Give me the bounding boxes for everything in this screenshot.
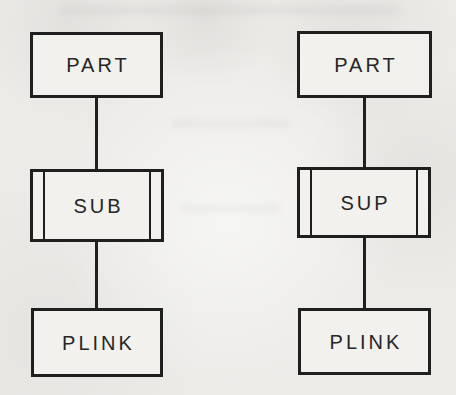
record-box-left-bar bbox=[310, 170, 312, 235]
connector-sub-to-plink bbox=[95, 242, 98, 308]
entity-box-label: PART bbox=[63, 55, 130, 75]
entity-box-label: PART bbox=[331, 55, 398, 75]
record-box-label: SUP bbox=[337, 193, 390, 213]
record-box-right-bar bbox=[149, 172, 151, 239]
record-box-right-bar bbox=[416, 170, 418, 235]
entity-box-label: PLINK bbox=[327, 332, 403, 352]
record-box-label: SUB bbox=[70, 196, 123, 216]
connector-part-to-sub bbox=[95, 98, 98, 169]
record-box-sup: SUP bbox=[297, 167, 431, 238]
record-box-sub: SUB bbox=[30, 169, 164, 242]
entity-box-label: PLINK bbox=[59, 333, 135, 353]
paper-bleed-smudge bbox=[170, 120, 290, 127]
connector-part-to-sup bbox=[363, 98, 366, 167]
entity-box-part-left: PART bbox=[30, 32, 163, 98]
record-box-left-bar bbox=[43, 172, 45, 239]
paper-bleed-smudge bbox=[180, 205, 280, 212]
connector-sup-to-plink bbox=[363, 238, 366, 308]
entity-box-part-right: PART bbox=[297, 31, 432, 98]
entity-box-plink-right: PLINK bbox=[298, 308, 431, 375]
entity-box-plink-left: PLINK bbox=[31, 308, 163, 377]
scanned-page: PART SUB PLINK PART SUP PLINK bbox=[0, 0, 456, 395]
paper-bleed-smudge bbox=[60, 6, 400, 14]
